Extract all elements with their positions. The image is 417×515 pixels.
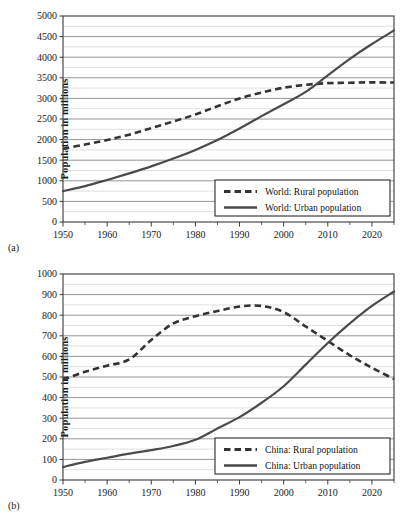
legend-label-rural: World: Rural population — [265, 186, 359, 197]
y-tick-label: 100 — [42, 454, 57, 465]
x-tick-label: 1990 — [230, 229, 250, 240]
y-tick-label: 900 — [42, 289, 57, 300]
x-tick-label: 1980 — [185, 487, 205, 498]
chart-panel-a: Population in millions (a) 0500100015002… — [0, 0, 417, 257]
y-tick-label: 1000 — [37, 175, 57, 186]
y-tick-label: 600 — [42, 351, 57, 362]
y-tick-label: 400 — [42, 392, 57, 403]
figure-page: Population in millions (a) 0500100015002… — [0, 0, 417, 515]
x-tick-label: 2010 — [318, 487, 338, 498]
y-tick-label: 700 — [42, 330, 57, 341]
y-tick-label: 2500 — [37, 113, 57, 124]
data-series — [63, 30, 394, 191]
x-tick-label: 1950 — [53, 229, 73, 240]
x-tick-label: 2000 — [274, 487, 294, 498]
chart-legend: World: Rural populationWorld: Urban popu… — [215, 180, 390, 216]
chart-legend: China: Rural populationChina: Urban popu… — [215, 438, 390, 474]
y-tick-label: 500 — [42, 196, 57, 207]
y-tick-label: 5000 — [37, 10, 57, 21]
y-axis: 0500100015002000250030003500400045005000 — [37, 10, 63, 227]
x-tick-label: 2000 — [274, 229, 294, 240]
legend-label-rural: China: Rural population — [265, 444, 358, 455]
x-tick-label: 1960 — [97, 229, 117, 240]
y-tick-label: 4500 — [37, 31, 57, 42]
y-tick-label: 2000 — [37, 134, 57, 145]
chart-svg-b: 0100200300400500600700800900100019501960… — [0, 258, 417, 515]
x-tick-label: 2020 — [362, 487, 382, 498]
x-tick-label: 2020 — [362, 229, 382, 240]
y-tick-label: 500 — [42, 371, 57, 382]
y-tick-label: 3500 — [37, 72, 57, 83]
y-tick-label: 200 — [42, 433, 57, 444]
x-tick-label: 1970 — [141, 229, 161, 240]
series-line-urban — [63, 30, 394, 191]
x-tick-label: 1980 — [185, 229, 205, 240]
x-tick-label: 1950 — [53, 487, 73, 498]
y-tick-label: 300 — [42, 413, 57, 424]
y-tick-label: 0 — [52, 474, 57, 485]
y-tick-label: 800 — [42, 310, 57, 321]
y-tick-label: 1000 — [37, 268, 57, 279]
chart-svg-a: 0500100015002000250030003500400045005000… — [0, 0, 417, 257]
y-tick-label: 4000 — [37, 52, 57, 63]
legend-label-urban: China: Urban population — [265, 460, 361, 471]
y-tick-label: 1500 — [37, 155, 57, 166]
x-axis: 19501960197019801990200020102020 — [53, 480, 394, 498]
y-tick-label: 3000 — [37, 93, 57, 104]
y-axis: 01002003004005006007008009001000 — [37, 268, 63, 485]
x-axis: 19501960197019801990200020102020 — [53, 222, 394, 240]
x-tick-label: 1960 — [97, 487, 117, 498]
x-tick-label: 2010 — [318, 229, 338, 240]
series-line-rural — [63, 82, 394, 148]
y-tick-label: 0 — [52, 216, 57, 227]
series-line-rural — [63, 305, 394, 379]
x-tick-label: 1970 — [141, 487, 161, 498]
chart-panel-b: Population in millions (b) 0100200300400… — [0, 258, 417, 515]
legend-label-urban: World: Urban population — [265, 202, 361, 213]
x-tick-label: 1990 — [230, 487, 250, 498]
